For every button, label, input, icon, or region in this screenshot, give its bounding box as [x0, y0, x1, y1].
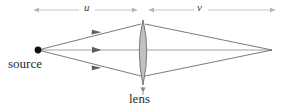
ray-arrowhead-lower: [92, 65, 102, 70]
source-label: source: [8, 57, 42, 70]
source-point-dot: [35, 47, 42, 54]
lens-label: lens: [129, 92, 150, 105]
object-distance-label-u: u: [84, 2, 90, 13]
incident-ray-lower: [38, 50, 141, 76]
ray-arrowhead-middle: [92, 47, 102, 53]
lens-element: [139, 20, 147, 85]
ray-arrowhead-upper: [92, 30, 102, 35]
incident-ray-upper: [38, 24, 141, 50]
refracted-ray-lower: [145, 50, 272, 76]
lens-body: [139, 20, 147, 85]
refracted-ray-upper: [145, 24, 272, 50]
image-distance-label-v: v: [197, 2, 202, 13]
lens-ray-diagram-figure: source lens u v: [0, 0, 283, 107]
